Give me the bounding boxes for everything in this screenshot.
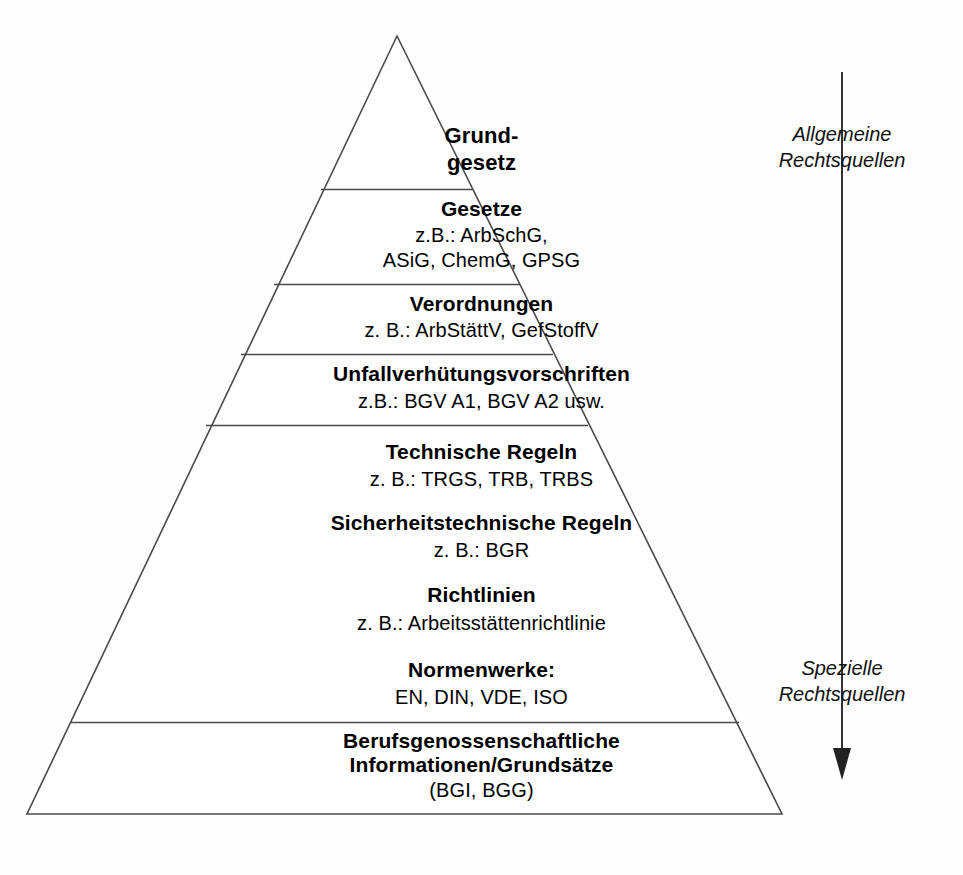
annotation-spezielle-rechtsquellen: Spezielle Rechtsquellen bbox=[742, 655, 942, 707]
diagram-canvas: Grund- gesetz Gesetze z.B.: ArbSchG, ASi… bbox=[0, 0, 963, 875]
direction-arrow-head bbox=[833, 748, 851, 780]
annotation-allgemeine-rechtsquellen: Allgemeine Rechtsquellen bbox=[742, 121, 942, 173]
